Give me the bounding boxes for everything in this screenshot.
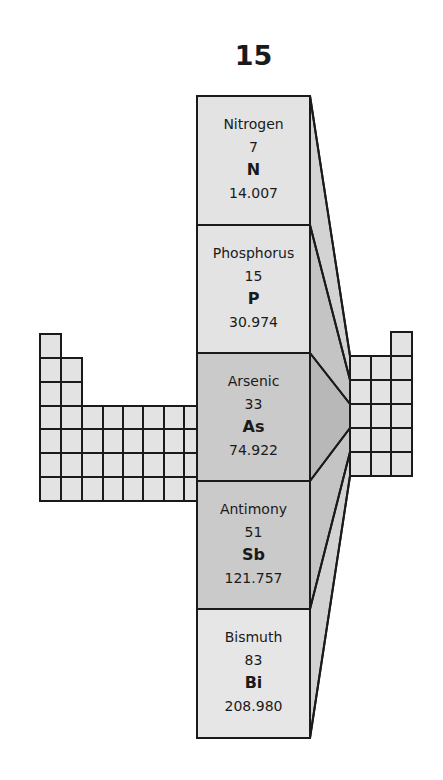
element-symbol: As xyxy=(197,417,310,437)
element-symbol: Sb xyxy=(197,545,310,565)
element-name: Arsenic xyxy=(197,371,310,391)
element-cell-nitrogen: Nitrogen 7 N 14.007 xyxy=(197,96,310,225)
element-cell-phosphorus: Phosphorus 15 P 30.974 xyxy=(197,225,310,353)
atomic-mass: 14.007 xyxy=(197,183,310,203)
element-symbol: P xyxy=(197,289,310,309)
element-symbol: N xyxy=(197,160,310,180)
element-symbol: Bi xyxy=(197,673,310,693)
atomic-mass: 121.757 xyxy=(197,568,310,588)
element-name: Bismuth xyxy=(197,627,310,647)
element-name: Phosphorus xyxy=(197,243,310,263)
element-cell-arsenic: Arsenic 33 As 74.922 xyxy=(197,353,310,481)
element-name: Antimony xyxy=(197,499,310,519)
atomic-number: 7 xyxy=(197,137,310,157)
left-mini-table xyxy=(40,334,197,501)
funnel-perspective xyxy=(310,96,350,738)
atomic-mass: 30.974 xyxy=(197,312,310,332)
atomic-number: 15 xyxy=(197,266,310,286)
atomic-number: 83 xyxy=(197,650,310,670)
element-cell-antimony: Antimony 51 Sb 121.757 xyxy=(197,481,310,609)
atomic-mass: 74.922 xyxy=(197,440,310,460)
element-name: Nitrogen xyxy=(197,114,310,134)
atomic-number: 51 xyxy=(197,522,310,542)
atomic-number: 33 xyxy=(197,394,310,414)
element-cell-bismuth: Bismuth 83 Bi 208.980 xyxy=(197,609,310,738)
atomic-mass: 208.980 xyxy=(197,696,310,716)
right-mini-table xyxy=(350,332,412,476)
